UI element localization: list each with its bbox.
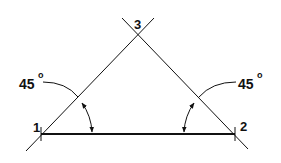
point-3-label: 3 [134,17,141,32]
left-leader [43,82,78,97]
triangle-construction-diagram: 1 2 3 45 o 45 o [0,0,281,163]
right-angle-degree: o [257,70,263,80]
diagram-svg: 1 2 3 45 o 45 o [0,0,281,163]
right-leader [199,82,236,97]
point-1-label: 1 [33,120,40,135]
left-angle-arc [82,103,92,132]
point-2-label: 2 [240,119,247,134]
right-angle-arc [184,103,194,132]
left-angle-degree: o [38,70,44,80]
left-angle-value: 45 [19,76,35,92]
right-construction-line [122,18,248,149]
left-construction-line [26,18,154,151]
right-angle-value: 45 [238,76,254,92]
